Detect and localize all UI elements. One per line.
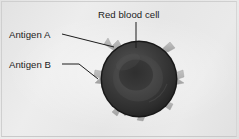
red-blood-cell: [101, 41, 178, 118]
label-antigen-a: Antigen A: [9, 29, 51, 40]
figure-red-blood-cell-antigens: Red blood cell Antigen A Antigen B: [0, 0, 239, 139]
leader-antigen-b: [62, 64, 98, 79]
label-red-blood-cell: Red blood cell: [98, 9, 160, 20]
label-antigen-b: Antigen B: [9, 59, 51, 70]
